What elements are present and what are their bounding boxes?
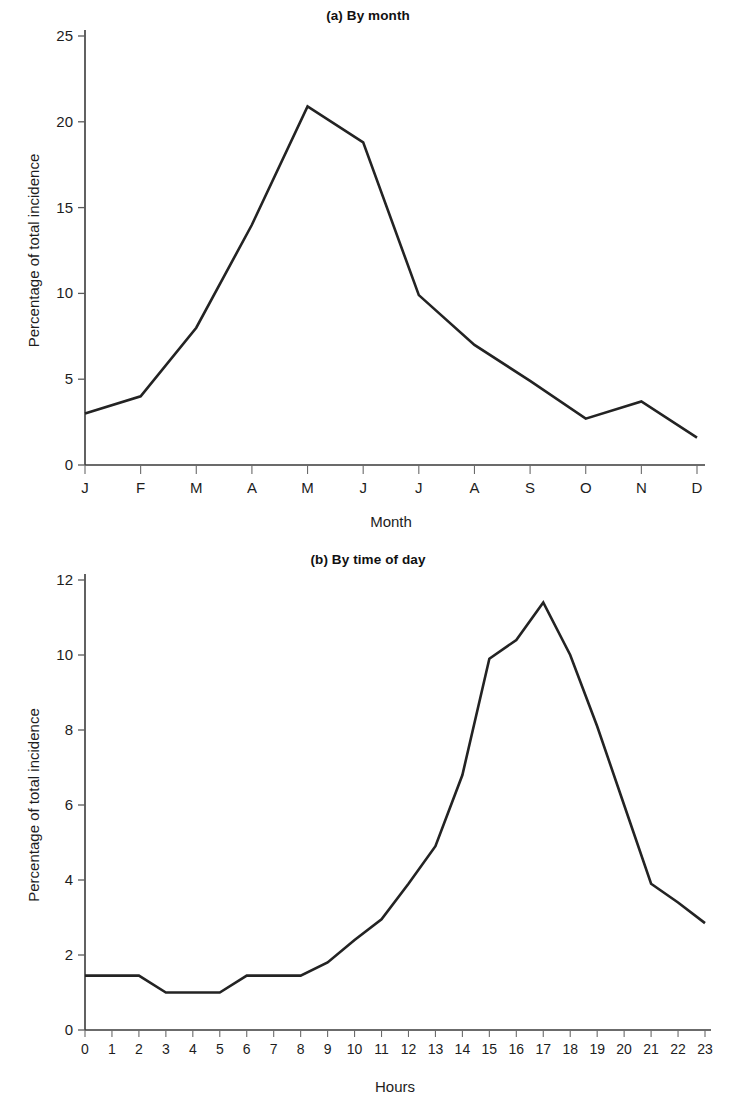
figure-by-month: (a) By month 0510152025JFMAMJJASONDMonth… [0, 0, 736, 540]
x-tick-label-12: 12 [401, 1041, 417, 1057]
y-tick-label-25: 25 [56, 27, 73, 44]
x-tick-label-5: J [359, 479, 367, 496]
chart-plot-by-month: 0510152025JFMAMJJASONDMonthPercentage of… [0, 0, 736, 540]
y-tick-label-20: 20 [56, 113, 73, 130]
x-tick-label-17: 17 [535, 1041, 551, 1057]
x-tick-label-11: D [692, 479, 703, 496]
y-tick-label-15: 15 [56, 199, 73, 216]
x-tick-label-21: 21 [643, 1041, 659, 1057]
x-tick-label-4: M [301, 479, 314, 496]
x-axis-title: Month [370, 513, 412, 530]
x-tick-label-3: 3 [162, 1041, 170, 1057]
data-series-line [85, 106, 697, 437]
x-tick-label-9: O [580, 479, 592, 496]
y-tick-label-0: 0 [65, 456, 73, 473]
x-tick-label-22: 22 [670, 1041, 686, 1057]
y-tick-label-12: 12 [56, 571, 73, 588]
x-tick-label-7: 7 [270, 1041, 278, 1057]
x-axis-title: Hours [375, 1078, 415, 1095]
data-series-line [85, 603, 705, 993]
y-tick-label-5: 5 [65, 370, 73, 387]
x-tick-label-2: 2 [135, 1041, 143, 1057]
x-tick-label-3: A [247, 479, 257, 496]
y-tick-label-0: 0 [65, 1021, 73, 1038]
figure-by-time-of-day: (b) By time of day 024681012012345678910… [0, 540, 736, 1111]
x-tick-label-18: 18 [562, 1041, 578, 1057]
y-tick-label-4: 4 [65, 871, 73, 888]
x-tick-label-7: A [469, 479, 479, 496]
x-tick-label-0: 0 [81, 1041, 89, 1057]
x-tick-label-10: 10 [347, 1041, 363, 1057]
y-axis-title: Percentage of total incidence [25, 708, 42, 901]
x-tick-label-4: 4 [189, 1041, 197, 1057]
x-tick-label-1: F [136, 479, 145, 496]
x-tick-label-11: 11 [374, 1041, 389, 1057]
x-tick-label-2: M [190, 479, 203, 496]
x-tick-label-1: 1 [108, 1041, 116, 1057]
y-tick-label-6: 6 [65, 796, 73, 813]
x-tick-label-10: N [636, 479, 647, 496]
y-tick-label-10: 10 [56, 646, 73, 663]
y-tick-label-2: 2 [65, 946, 73, 963]
x-tick-label-19: 19 [589, 1041, 605, 1057]
x-tick-label-6: J [415, 479, 423, 496]
x-tick-label-16: 16 [509, 1041, 525, 1057]
chart-plot-by-time-of-day: 0246810120123456789101112131415161718192… [0, 540, 736, 1111]
x-tick-label-9: 9 [324, 1041, 332, 1057]
x-tick-label-13: 13 [428, 1041, 444, 1057]
x-tick-label-23: 23 [697, 1041, 713, 1057]
x-tick-label-20: 20 [616, 1041, 632, 1057]
y-axis-title: Percentage of total incidence [25, 154, 42, 347]
y-tick-label-8: 8 [65, 721, 73, 738]
x-tick-label-14: 14 [455, 1041, 471, 1057]
x-tick-label-8: S [525, 479, 535, 496]
x-tick-label-5: 5 [216, 1041, 224, 1057]
x-tick-label-0: J [81, 479, 89, 496]
x-tick-label-6: 6 [243, 1041, 251, 1057]
x-tick-label-8: 8 [297, 1041, 305, 1057]
x-tick-label-15: 15 [482, 1041, 498, 1057]
y-tick-label-10: 10 [56, 284, 73, 301]
